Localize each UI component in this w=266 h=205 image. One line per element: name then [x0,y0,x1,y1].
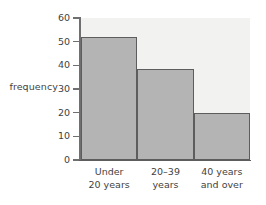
x-category-label: 40 yearsand over [182,166,262,191]
y-tick-mark [73,112,79,113]
y-tick-label: 30 [46,84,70,94]
y-tick-label: 0 [46,155,70,165]
bar [194,113,250,160]
y-tick-label: 20 [46,108,70,118]
x-category-label-line2: and over [182,179,262,192]
y-tick-mark [73,88,79,89]
frequency-histogram: frequency 0102030405060 Under20 years20–… [0,0,266,205]
y-tick-mark [73,17,79,18]
x-category-label-line1: Under [95,166,124,177]
bar [81,37,137,160]
y-tick-mark [73,159,79,160]
bar [137,69,193,160]
y-tick-label: 50 [46,37,70,47]
x-category-label-line1: 40 years [201,166,242,177]
x-category-label-line1: 20–39 [151,166,180,177]
y-tick-label: 40 [46,60,70,70]
y-tick-label: 10 [46,131,70,141]
y-tick-mark [73,136,79,137]
y-tick-mark [73,65,79,66]
y-tick-mark [73,41,79,42]
y-tick-label: 60 [46,13,70,23]
